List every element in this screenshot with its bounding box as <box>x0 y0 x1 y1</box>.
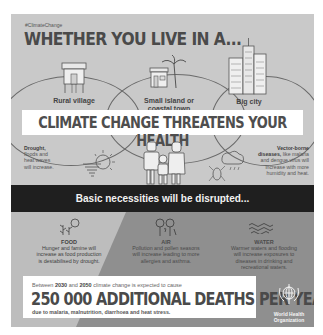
sun-tornado-icon <box>79 148 119 182</box>
necessities-banner: Basic necessities will be disrupted... <box>11 185 314 212</box>
stilt-house-icon <box>59 57 89 95</box>
necessity-air: AIR Pollution and pollen seasons will in… <box>116 239 216 264</box>
threat-vector-text: Vector-borne diseases, like malaria and … <box>243 145 309 176</box>
skyscrapers-icon <box>226 36 271 96</box>
necessity-water: WATER Warmer waters and flooding will in… <box>214 239 314 270</box>
who-name: World Health Organization <box>269 312 309 323</box>
health-banner: CLIMATE CHANGE THREATENS YOUR HEALTH <box>22 110 303 135</box>
family-icon <box>141 140 189 188</box>
place-label-city: Big city <box>216 98 282 106</box>
mosquito-rain-cloud-icon <box>207 148 247 184</box>
deaths-intro: Between 2030 and 2050 climate change is … <box>32 282 182 288</box>
page-title: WHETHER YOU LIVE IN A... <box>24 29 241 50</box>
deaths-cause: due to malaria, malnutrition, diarrhoea … <box>32 309 170 315</box>
trees-wind-icon <box>154 217 178 237</box>
deaths-callout: Between 2030 and 2050 climate change is … <box>23 276 256 318</box>
beach-house-palm-icon <box>146 54 188 92</box>
threat-drought-text: Drought, floods and heat waves will incr… <box>24 145 74 170</box>
infographic-panel: #ClimateChange WHETHER YOU LIVE IN A... … <box>11 14 314 327</box>
necessities-banner-text: Basic necessities will be disrupted... <box>11 193 314 204</box>
place-label-rural: Rural village <box>41 97 107 105</box>
crops-sun-icon <box>59 217 83 237</box>
necessity-food: FOOD Hunger and famine will increase as … <box>17 239 121 264</box>
who-emblem-icon <box>276 282 302 306</box>
hashtag: #ClimateChange <box>25 22 62 28</box>
who-logo: World Health Organization <box>269 282 309 323</box>
waves-icon <box>248 222 274 234</box>
